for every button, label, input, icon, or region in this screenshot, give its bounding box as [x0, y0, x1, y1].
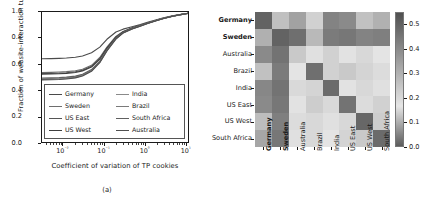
heatmap-cell: [289, 96, 306, 113]
x-tick-minor-a: [102, 143, 103, 145]
colorbar-tick-label: 0.0: [409, 144, 420, 151]
x-tick-minor-a: [82, 143, 83, 145]
x-tick-label-a: 10⁻¹: [89, 147, 119, 155]
caption-a: (a): [72, 186, 142, 194]
heatmap-column-label: Sweden: [283, 122, 290, 151]
x-tick-minor-a: [87, 143, 88, 145]
x-tick-mark-a: [62, 143, 63, 146]
heatmap-cell: [339, 80, 356, 97]
x-tick-mark-a: [186, 143, 187, 146]
heatmap-column-tick: [331, 147, 332, 150]
legend-label: US West: [65, 127, 91, 133]
x-tick-minor-a: [61, 143, 62, 145]
heatmap-cell: [306, 63, 323, 80]
heatmap-cell: [289, 63, 306, 80]
heatmap-cell: [306, 46, 323, 63]
x-tick-minor-a: [157, 143, 158, 145]
legend-swatch: [116, 106, 129, 107]
colorbar-tick-mark: [404, 49, 407, 50]
heatmap-row-label: Germany: [160, 17, 252, 24]
heatmap-cell: [373, 46, 390, 63]
heatmap-cell: [306, 80, 323, 97]
x-tick-minor-a: [50, 143, 51, 145]
y-tick-label-a: 0.2: [0, 113, 22, 120]
heatmap-row-tick: [251, 88, 254, 89]
heatmap-cell: [272, 46, 289, 63]
legend-item-us-west[interactable]: US West: [49, 124, 114, 136]
heatmap-cell: [356, 29, 373, 46]
heatmap-column-label: US East: [350, 126, 357, 151]
heatmap-row-tick: [251, 139, 254, 140]
legend-swatch: [116, 118, 129, 119]
heatmap-row-tick: [251, 122, 254, 123]
x-tick-minor-a: [123, 143, 124, 145]
heatmap-cell: [373, 12, 390, 29]
heatmap-cell: [339, 29, 356, 46]
heatmap-row-label: Australia: [160, 51, 252, 58]
legend-items: GermanyIndiaSwedenBrazilUS EastSouth Afr…: [49, 88, 181, 136]
legend-swatch: [49, 94, 62, 95]
colorbar-tick-label: 0.2: [409, 95, 420, 102]
colorbar-tick-mark: [404, 147, 407, 148]
heatmap-cell: [289, 12, 306, 29]
heatmap-cell: [323, 63, 340, 80]
legend-item-sweden[interactable]: Sweden: [49, 100, 114, 112]
x-tick-minor-a: [128, 143, 129, 145]
heatmap-cell: [323, 29, 340, 46]
x-tick-minor-a: [46, 143, 47, 145]
heatmap-column-label: India: [334, 135, 341, 151]
x-tick-minor-a: [94, 143, 95, 145]
x-tick-minor-a: [75, 143, 76, 145]
heatmap-cell: [255, 29, 272, 46]
heatmap-cell: [323, 80, 340, 97]
x-tick-minor-a: [132, 143, 133, 145]
heatmap-cell: [255, 96, 272, 113]
heatmap-row-label: South Africa: [160, 135, 252, 142]
legend-swatch: [116, 94, 129, 95]
legend-a: GermanyIndiaSwedenBrazilUS EastSouth Afr…: [44, 84, 185, 139]
colorbar-tick-mark: [404, 98, 407, 99]
heatmap-column-tick: [365, 147, 366, 150]
x-tick-minor-a: [182, 143, 183, 145]
heatmap-cell: [255, 80, 272, 97]
x-tick-minor-a: [173, 143, 174, 145]
heatmap-cell: [373, 80, 390, 97]
x-tick-minor-a: [136, 143, 137, 145]
legend-swatch: [49, 106, 62, 107]
figure-container: Fraction of website-interaction tuples 0…: [0, 0, 429, 211]
legend-item-germany[interactable]: Germany: [49, 88, 114, 100]
heatmap-cell: [289, 80, 306, 97]
heatmap-row-tick: [251, 105, 254, 106]
legend-label: Germany: [65, 91, 94, 97]
heatmap-cell: [323, 113, 340, 130]
heatmap-cell: [339, 63, 356, 80]
legend-label: Sweden: [65, 103, 90, 109]
heatmap-cell: [356, 63, 373, 80]
heatmap-cell: [306, 12, 323, 29]
heatmap-cell: [306, 113, 323, 130]
heatmap-row-label: India: [160, 85, 252, 92]
legend-label: India: [132, 91, 147, 97]
x-tick-minor-a: [169, 143, 170, 145]
heatmap-cell: [356, 96, 373, 113]
heatmap-row-tick: [251, 71, 254, 72]
heatmap-row-tick: [251, 37, 254, 38]
heatmap-row-label: Brazil: [160, 68, 252, 75]
colorbar-tick-mark: [404, 73, 407, 74]
x-tick-minor-a: [91, 143, 92, 145]
heatmap-column-tick: [263, 147, 264, 150]
x-tick-minor-a: [53, 143, 54, 145]
x-tick-minor-a: [56, 143, 57, 145]
heatmap-cell: [339, 12, 356, 29]
legend-item-us-east[interactable]: US East: [49, 112, 114, 124]
y-tick-label-a: 0.0: [0, 140, 22, 147]
colorbar-tick-label: 0.5: [409, 21, 420, 28]
x-tick-mark-a: [145, 143, 146, 146]
legend-label: US East: [65, 115, 89, 121]
colorbar-tick-mark: [404, 24, 407, 25]
legend-item-australia[interactable]: Australia: [116, 124, 181, 136]
heatmap-cell: [272, 63, 289, 80]
heatmap-cell: [272, 80, 289, 97]
heatmap-cell: [306, 29, 323, 46]
x-tick-minor-a: [179, 143, 180, 145]
